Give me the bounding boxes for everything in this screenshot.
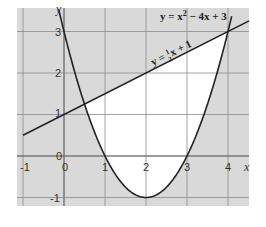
- parabola-eq-b: − 4x + 3: [187, 10, 228, 22]
- y-tick-2: 2: [55, 67, 61, 79]
- x-tick-0: 0: [62, 161, 68, 173]
- x-tick-3: 3: [184, 161, 190, 173]
- x-tick-2: 2: [143, 161, 149, 173]
- parabola-eq-a: y = x: [160, 10, 183, 22]
- parabola-equation: y = x2 − 4x + 3: [160, 9, 227, 22]
- y-tick-3: 3: [55, 26, 61, 38]
- x-tick-neg1: -1: [20, 161, 30, 173]
- y-tick-1: 1: [55, 107, 61, 119]
- y-axis-label: y: [55, 2, 62, 16]
- x-tick-1: 1: [102, 161, 108, 173]
- x-tick-4: 4: [225, 161, 231, 173]
- x-axis-label: x: [243, 160, 250, 174]
- graph-area: -1 0 0 1 2 3 4 x 3 2 1 -1 y y = x2 − 4x …: [0, 0, 266, 227]
- y-tick-neg1: -1: [50, 192, 60, 204]
